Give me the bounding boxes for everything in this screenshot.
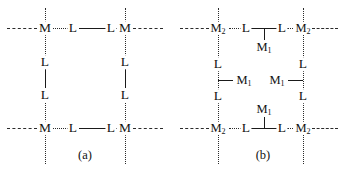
node-m2-bottom-left-subscript-b: 2 <box>222 127 226 136</box>
bond-m2-l-bottom-left-b <box>229 128 241 129</box>
caption-panel-a: (a) <box>78 149 92 162</box>
linker-l-right-lower-b: L <box>297 89 308 103</box>
linker-l-right-upper-a: L <box>119 55 130 69</box>
linker-l-left-upper-a: L <box>39 55 50 69</box>
linker-l-top-left-b: L <box>240 21 251 35</box>
bond-l-m1-stub-top-b <box>264 28 265 40</box>
node-m-top-right-a: M <box>118 21 133 35</box>
lattice-line-right-extension-bottom-a <box>133 128 163 129</box>
lattice-line-left-extension-bottom-a <box>7 128 37 129</box>
bond-m-l-top-left-a <box>53 28 68 29</box>
pendant-m1-top-centre-subscript-b: 1 <box>268 46 272 55</box>
bond-l-l-bottom-a <box>79 128 106 129</box>
linker-l-bottom-left-a: L <box>67 121 78 135</box>
bond-l-m1-stub-left-b <box>218 80 233 81</box>
linker-l-top-right-b: L <box>276 21 287 35</box>
bond-l-l-top-a <box>79 28 106 29</box>
node-m2-bottom-right-subscript-b: 2 <box>307 127 311 136</box>
linker-l-left-lower-b: L <box>212 89 223 103</box>
bond-m-l-bottom-left-a <box>53 128 68 129</box>
pendant-m1-top-centre-b: M1 <box>255 41 273 54</box>
node-m2-bottom-right-b: M2 <box>294 122 312 135</box>
node-m-top-left-a: M <box>38 21 53 35</box>
bond-l-l-left-a <box>45 70 46 88</box>
linker-l-top-right-a: L <box>105 21 116 35</box>
linker-l-bottom-left-b: L <box>240 121 251 135</box>
lattice-line-right-extension-top-b <box>312 28 338 29</box>
node-m2-bottom-left-b: M2 <box>209 122 227 135</box>
node-m-bottom-right-a: M <box>118 121 133 135</box>
linker-l-left-upper-b: L <box>212 57 223 71</box>
pendant-m1-left-centre-b: M1 <box>235 74 253 87</box>
panel-a: M L L M L L L L M L L M (a) <box>0 0 171 175</box>
caption-panel-b: (b) <box>256 149 271 162</box>
pendant-m1-right-centre-subscript-b: 1 <box>281 79 285 88</box>
node-m2-top-left-subscript-b: 2 <box>222 27 226 36</box>
pendant-m1-bottom-centre-subscript-b: 1 <box>268 108 272 117</box>
bond-l-l-right-a <box>125 70 126 88</box>
linker-l-bottom-right-a: L <box>105 121 116 135</box>
figure-container: M L L M L L L L M L L M (a) <box>0 0 342 175</box>
lattice-line-right-extension-bottom-b <box>312 128 338 129</box>
bond-l-m1-stub-right-b <box>288 80 303 81</box>
lattice-line-left-extension-top-b <box>180 28 209 29</box>
bond-m2-l-top-left-b <box>229 28 241 29</box>
node-m-bottom-left-a: M <box>38 121 53 135</box>
linker-l-right-lower-a: L <box>119 88 130 102</box>
linker-l-left-lower-a: L <box>39 88 50 102</box>
node-m2-top-right-b: M2 <box>294 22 312 35</box>
bond-l-m1-stub-bottom-b <box>264 117 265 128</box>
node-m2-top-right-subscript-b: 2 <box>307 27 311 36</box>
bond-l-l-bottom-b <box>251 128 277 129</box>
node-m2-top-left-b: M2 <box>209 22 227 35</box>
linker-l-right-upper-b: L <box>297 57 308 71</box>
pendant-m1-bottom-centre-b: M1 <box>255 103 273 116</box>
linker-l-top-left-a: L <box>67 21 78 35</box>
lattice-line-left-extension-bottom-b <box>180 128 209 129</box>
pendant-m1-left-centre-subscript-b: 1 <box>248 79 252 88</box>
bond-l-l-right-b <box>303 70 304 90</box>
panel-b: M2 L L M2 M1 L L M1 L L M1 M1 M2 L L M2 … <box>171 0 342 175</box>
lattice-line-left-extension-top-a <box>7 28 37 29</box>
pendant-m1-right-centre-b: M1 <box>268 74 286 87</box>
lattice-line-right-extension-top-a <box>133 28 163 29</box>
linker-l-bottom-right-b: L <box>276 121 287 135</box>
